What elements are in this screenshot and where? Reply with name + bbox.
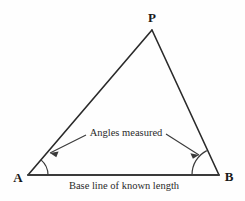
triangle-side-ap <box>28 30 152 175</box>
triangulation-diagram: P A B Angles measured Base line of known… <box>0 0 245 201</box>
vertex-label-a: A <box>13 170 23 185</box>
angles-measured-label: Angles measured <box>90 127 163 138</box>
triangle-side-pb <box>152 30 219 175</box>
baseline-caption-label: Base line of known length <box>69 180 180 191</box>
triangulation-figure: P A B Angles measured Base line of known… <box>0 0 245 201</box>
leader-line-right <box>166 134 199 155</box>
angle-arc-a <box>41 160 48 175</box>
vertex-label-b: B <box>225 169 234 184</box>
vertex-label-p: P <box>148 10 156 25</box>
